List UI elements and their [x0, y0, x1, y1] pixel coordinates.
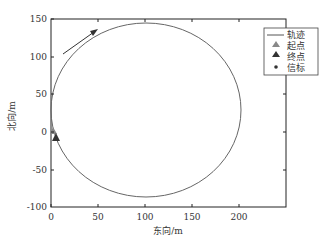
y-axis-label: 北向/m	[6, 101, 17, 131]
x-tick-label: 150	[183, 212, 200, 222]
y-tick-label: -50	[33, 165, 48, 175]
legend-label: 终点	[287, 51, 305, 62]
y-tick-label: 150	[30, 14, 47, 24]
x-axis-label: 东向/m	[153, 225, 183, 236]
y-axis: -100 -50 0 50 100 150 北向/m	[6, 14, 286, 212]
x-axis: 0 50 100 150 200 250 东向/m	[48, 19, 248, 236]
y-tick-label: 0	[41, 127, 47, 137]
x-tick-label: 100	[136, 212, 153, 222]
end-point-marker	[52, 133, 60, 141]
legend-beacon-dot-icon	[274, 65, 278, 69]
y-tick-label: -100	[27, 202, 47, 212]
direction-arrow	[63, 29, 98, 54]
trajectory-chart: 0 50 100 150 200 250 东向/m -100 -50 0 50 …	[0, 0, 333, 249]
x-tick-label: 0	[48, 212, 54, 222]
y-tick-label: 50	[36, 89, 48, 99]
legend-label: 信标	[287, 62, 305, 73]
legend-label: 起点	[287, 41, 305, 51]
legend: 轨迹 起点 终点 信标	[264, 28, 318, 75]
trajectory-line	[51, 23, 241, 197]
x-tick-label: 50	[92, 212, 104, 222]
plot-frame	[51, 19, 286, 207]
legend-label: 轨迹	[287, 29, 305, 40]
y-tick-label: 100	[30, 52, 47, 62]
x-tick-label: 200	[230, 212, 247, 222]
